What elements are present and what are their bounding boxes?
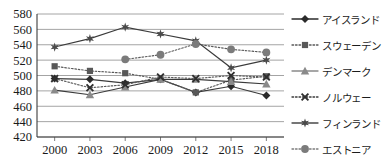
data-point-marker: [121, 55, 129, 63]
y-axis-tick-label: 500: [13, 69, 32, 83]
legend-marker-glyph: [302, 42, 308, 48]
data-point-marker: [52, 63, 58, 69]
data-point-marker: [157, 51, 165, 59]
legend-marker-circle-icon: [291, 141, 319, 157]
data-point-marker: [193, 89, 199, 95]
legend-marker-diamond-icon: [291, 11, 319, 27]
legend-item-2[interactable]: スウェーデン: [291, 35, 383, 55]
legend-label: エストニア: [322, 142, 371, 157]
x-axis-tick-label: 2000: [42, 143, 67, 157]
data-point-marker: [86, 34, 94, 43]
y-axis-tick-labels: 580560540520500480460440420: [13, 7, 32, 144]
legend-item-6[interactable]: エストニア: [291, 139, 383, 159]
y-axis-tick-label: 420: [13, 130, 32, 144]
data-point-marker: [262, 91, 270, 99]
y-axis-tick-label: 520: [13, 54, 32, 68]
data-point-marker: [192, 40, 200, 48]
line-chart: 580560540520500480460440420 200020032006…: [0, 0, 383, 165]
legend-marker-glyph: [301, 145, 309, 153]
data-point-marker: [262, 49, 270, 57]
x-axis-tick-label: 2018: [254, 143, 279, 157]
legend: アイスランドスウェーデンデンマークノルウェーフィンランドエストニア: [291, 9, 383, 159]
x-axis-tick-label: 2015: [219, 143, 244, 157]
x-axis-tick-label: 2006: [113, 143, 138, 157]
legend-item-4[interactable]: ノルウェー: [291, 87, 383, 107]
legend-marker-star-icon: [291, 115, 319, 131]
legend-item-1[interactable]: アイスランド: [291, 9, 383, 29]
legend-marker-triangle-icon: [291, 63, 319, 79]
data-point-marker: [50, 86, 58, 94]
y-axis-tick-label: 580: [13, 7, 32, 21]
data-point-marker: [227, 63, 235, 72]
chart-canvas: 580560540520500480460440420 200020032006…: [0, 0, 290, 165]
x-axis-tick-label: 2003: [77, 143, 102, 157]
y-axis-tick-label: 480: [13, 84, 32, 98]
plot-area: 580560540520500480460440420 200020032006…: [0, 0, 290, 165]
legend-marker-x-icon: [291, 89, 319, 105]
y-axis-tick-label: 440: [13, 115, 32, 129]
legend-label: アイスランド: [322, 12, 380, 27]
legend-marker-square-icon: [291, 37, 319, 53]
legend-label: スウェーデン: [322, 38, 381, 53]
data-point-marker: [122, 70, 128, 76]
data-point-marker: [51, 42, 59, 51]
legend-item-5[interactable]: フィンランド: [291, 113, 383, 133]
legend-label: デンマーク: [322, 64, 371, 79]
data-point-marker: [86, 75, 94, 83]
y-axis-tick-label: 460: [13, 100, 32, 114]
x-axis-tick-marks: [55, 137, 267, 141]
y-axis-tick-label: 540: [13, 38, 32, 52]
y-axis-tick-label: 560: [13, 23, 32, 37]
x-axis-tick-labels: 2000200320062009201220152018: [42, 143, 279, 157]
legend-item-3[interactable]: デンマーク: [291, 61, 383, 81]
legend-label: フィンランド: [322, 116, 381, 131]
data-point-marker: [87, 68, 93, 74]
legend-marker-glyph: [301, 15, 309, 23]
x-axis-tick-label: 2009: [148, 143, 173, 157]
data-point-marker: [227, 45, 235, 53]
legend-label: ノルウェー: [322, 90, 371, 105]
x-axis-tick-label: 2012: [183, 143, 208, 157]
